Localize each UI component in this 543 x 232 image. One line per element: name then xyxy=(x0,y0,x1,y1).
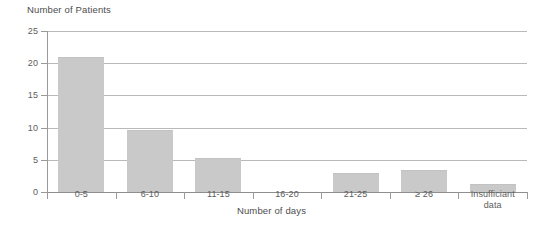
x-tick-label-line: 0-5 xyxy=(47,189,116,200)
bar-slot xyxy=(47,31,116,192)
bar-slot xyxy=(116,31,185,192)
y-tick-label: 10 xyxy=(12,123,38,133)
x-tick-label-line: 11-15 xyxy=(184,189,253,200)
y-tick-label: 25 xyxy=(12,26,38,36)
bar-slot xyxy=(184,31,253,192)
x-tick-label: 16-20 xyxy=(253,189,322,200)
y-tick-label: 5 xyxy=(12,155,38,165)
x-tick-label-line: Insufficiant xyxy=(458,189,527,200)
x-tick-label: 11-15 xyxy=(184,189,253,200)
x-tick-label-line: ≥ 26 xyxy=(390,189,459,200)
bar-slot xyxy=(458,31,527,192)
x-axis-title: Number of days xyxy=(0,205,543,216)
y-tick-label: 15 xyxy=(12,90,38,100)
bar-slot xyxy=(253,31,322,192)
bar-chart: Number of Patients 2520151050 0-56-1011-… xyxy=(0,0,543,232)
x-tick-label: 0-5 xyxy=(47,189,116,200)
bar xyxy=(127,130,173,192)
x-tick-label-line: 6-10 xyxy=(116,189,185,200)
y-tick-label: 20 xyxy=(12,58,38,68)
y-axis-title: Number of Patients xyxy=(27,4,111,15)
bar-slot xyxy=(390,31,459,192)
x-tick-label: 21-25 xyxy=(321,189,390,200)
x-tick-mark xyxy=(527,192,528,199)
x-tick-label: 6-10 xyxy=(116,189,185,200)
bar-slot xyxy=(321,31,390,192)
bar xyxy=(58,57,104,192)
x-tick-label-line: 21-25 xyxy=(321,189,390,200)
x-tick-label: ≥ 26 xyxy=(390,189,459,200)
x-tick-label-line: 16-20 xyxy=(253,189,322,200)
bars-container xyxy=(47,31,527,192)
y-tick-label: 0 xyxy=(12,187,38,197)
bar xyxy=(195,158,241,192)
